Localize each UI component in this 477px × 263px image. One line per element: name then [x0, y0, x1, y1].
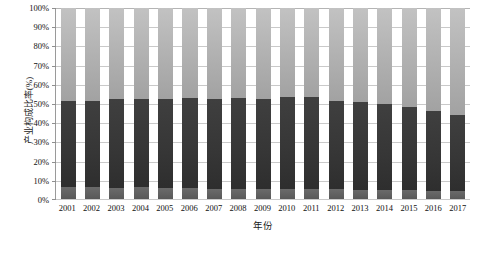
bar-segment-tertiary [109, 8, 124, 99]
stacked-bar[interactable] [402, 8, 417, 199]
bar-segment-secondary [304, 97, 319, 190]
bar-segment-tertiary [280, 8, 295, 97]
bar-segment-secondary [426, 111, 441, 191]
bar-segment-primary [377, 190, 392, 199]
x-tick-label: 2009 [250, 202, 274, 216]
x-tick-label: 2014 [372, 202, 396, 216]
bar-slot [324, 8, 348, 199]
bar-segment-primary [109, 188, 124, 199]
stacked-bar[interactable] [109, 8, 124, 199]
stacked-bar[interactable] [134, 8, 149, 199]
bar-slot [275, 8, 299, 199]
bar-segment-tertiary [353, 8, 368, 102]
bar-segment-secondary [109, 99, 124, 188]
bar-segment-primary [231, 189, 246, 200]
y-axis-tick-labels: 0%10%20%30%40%50%60%70%80%90%100% [20, 8, 52, 200]
bar-segment-tertiary [61, 8, 76, 101]
bar-segment-primary [182, 188, 197, 199]
y-tick-label: 70% [33, 61, 49, 70]
bar-segment-secondary [402, 107, 417, 190]
y-tick-label: 100% [29, 4, 49, 13]
y-tick-label: 80% [33, 42, 49, 51]
bar-segment-primary [256, 189, 271, 199]
y-tickmark [52, 199, 56, 200]
bar-slot [80, 8, 104, 199]
stacked-bar[interactable] [353, 8, 368, 199]
bar-slot [153, 8, 177, 199]
gridline [56, 199, 470, 200]
bar-segment-tertiary [85, 8, 100, 101]
stacked-bar[interactable] [304, 8, 319, 199]
stacked-bar[interactable] [256, 8, 271, 199]
bar-segment-primary [402, 190, 417, 199]
bar-segment-secondary [61, 101, 76, 187]
stacked-bar[interactable] [231, 8, 246, 199]
bar-segment-primary [304, 189, 319, 199]
stacked-bar[interactable] [377, 8, 392, 199]
bar-segment-tertiary [304, 8, 319, 97]
bar-segment-tertiary [134, 8, 149, 99]
x-tick-label: 2016 [421, 202, 445, 216]
x-tick-label: 2001 [55, 202, 79, 216]
stacked-bar[interactable] [182, 8, 197, 199]
bar-slot [178, 8, 202, 199]
x-tick-label: 2007 [201, 202, 225, 216]
bar-segment-primary [353, 190, 368, 199]
bar-segment-secondary [377, 104, 392, 190]
y-tick-label: 50% [33, 100, 49, 109]
bar-slot [300, 8, 324, 199]
bar-segment-tertiary [402, 8, 417, 107]
bar-slot [202, 8, 226, 199]
bar-slot [105, 8, 129, 199]
bar-segment-tertiary [231, 8, 246, 98]
bar-segment-secondary [85, 101, 100, 187]
y-tick-label: 20% [33, 157, 49, 166]
x-axis-tick-labels: 2001200220032004200520062007200820092010… [55, 202, 470, 216]
x-tick-label: 2002 [79, 202, 103, 216]
y-tick-label: 30% [33, 138, 49, 147]
bar-segment-primary [280, 189, 295, 199]
bar-segment-primary [158, 188, 173, 199]
bar-slot [129, 8, 153, 199]
stacked-bar[interactable] [426, 8, 441, 199]
bar-slot [421, 8, 445, 199]
x-tick-label: 2005 [153, 202, 177, 216]
bar-segment-tertiary [426, 8, 441, 111]
bar-segment-secondary [231, 98, 246, 188]
stacked-bar[interactable] [85, 8, 100, 199]
x-tick-label: 2006 [177, 202, 201, 216]
bar-slot [446, 8, 470, 199]
bar-slot [251, 8, 275, 199]
bar-segment-tertiary [158, 8, 173, 99]
bar-segment-tertiary [182, 8, 197, 98]
bar-segment-primary [207, 189, 222, 199]
stacked-bar[interactable] [207, 8, 222, 199]
stacked-bar[interactable] [450, 8, 465, 199]
bar-segment-tertiary [377, 8, 392, 104]
bar-segment-tertiary [450, 8, 465, 115]
stacked-bar[interactable] [158, 8, 173, 199]
bar-segment-tertiary [207, 8, 222, 99]
bar-segment-secondary [353, 102, 368, 190]
x-tick-label: 2003 [104, 202, 128, 216]
plot-area [55, 8, 470, 200]
x-tick-label: 2004 [128, 202, 152, 216]
bar-segment-tertiary [256, 8, 271, 99]
bar-slot [373, 8, 397, 199]
x-tick-label: 2017 [446, 202, 470, 216]
bar-segment-primary [134, 187, 149, 199]
bar-segment-primary [61, 187, 76, 199]
x-tick-label: 2013 [348, 202, 372, 216]
bar-segment-primary [426, 191, 441, 199]
bar-segment-secondary [158, 99, 173, 187]
stacked-bar[interactable] [329, 8, 344, 199]
y-tick-label: 60% [33, 81, 49, 90]
x-tick-label: 2012 [323, 202, 347, 216]
stacked-bar[interactable] [61, 8, 76, 199]
bar-segment-secondary [134, 99, 149, 187]
y-tick-label: 90% [33, 23, 49, 32]
bars-layer [56, 8, 470, 199]
bar-segment-secondary [450, 115, 465, 191]
bar-slot [56, 8, 80, 199]
stacked-bar[interactable] [280, 8, 295, 199]
